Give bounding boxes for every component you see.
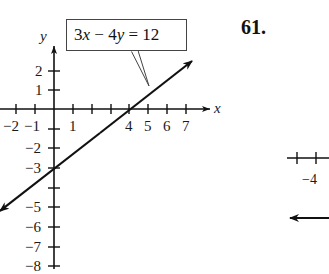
x-tick-label: 7 xyxy=(182,119,190,134)
y-tick-label: −2 xyxy=(25,141,41,156)
equation-callout-text: 3x − 4y = 12 xyxy=(74,26,159,43)
x-tick-label: 4 xyxy=(125,119,133,134)
x-tick-label: 1 xyxy=(69,119,77,134)
y-tick-label: −7 xyxy=(25,240,41,255)
y-tick-label: −8 xyxy=(25,259,41,274)
partial-number-line xyxy=(287,152,329,164)
equation-line xyxy=(0,61,192,211)
callout-pointer xyxy=(131,51,149,87)
y-tick-label: 1 xyxy=(35,83,43,98)
x-axis xyxy=(0,104,210,114)
y-axis-label: y xyxy=(40,29,47,44)
x-tick-label: −1 xyxy=(24,119,40,134)
y-tick-label: −5 xyxy=(25,200,41,215)
problem-number: 61. xyxy=(241,17,266,37)
x-tick-label: 6 xyxy=(163,119,171,134)
y-tick-label: −3 xyxy=(25,161,41,176)
partial-tick-label: −4 xyxy=(302,172,317,187)
y-tick-label: 2 xyxy=(35,64,43,79)
y-axis xyxy=(48,46,60,269)
y-tick-label: −6 xyxy=(25,220,41,235)
x-tick-label: 5 xyxy=(144,119,152,134)
x-tick-label: −2 xyxy=(3,119,19,134)
x-axis-label: x xyxy=(214,101,221,116)
equation-label: 3x − 4y = 12 xyxy=(74,25,159,44)
